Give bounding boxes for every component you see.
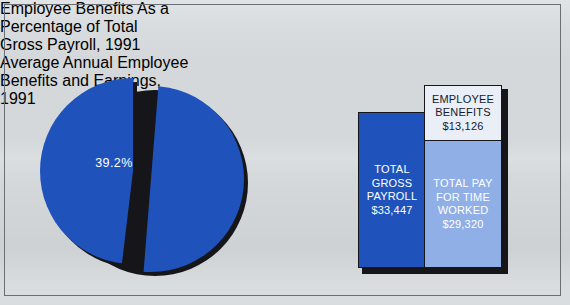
right-chart-title-line-1: Average Annual Employee — [0, 54, 215, 72]
bar-paytime-value: $29,320 — [442, 218, 483, 232]
left-chart-title: Employee Benefits As a Percentage of Tot… — [0, 0, 232, 54]
bar-chart: TOTAL GROSS PAYROLL $33,447 EMPLOYEE BEN… — [352, 82, 512, 282]
left-chart-title-line-3: Gross Payroll, 1991 — [0, 36, 232, 54]
left-chart-title-line-2: Percentage of Total — [0, 18, 232, 36]
bar-benefits-label-line-1: EMPLOYEE — [432, 93, 494, 107]
left-chart-title-line-1: Employee Benefits As a — [0, 0, 232, 18]
pie-slice-percent-label: 39.2% — [62, 156, 166, 170]
bar-benefits-value: $13,126 — [442, 120, 483, 134]
bar-gross-label-line-3: PAYROLL — [367, 190, 418, 204]
bar-gross-label-line-1: TOTAL — [374, 163, 409, 177]
bar-paytime-label-line-2: FOR TIME — [436, 191, 490, 205]
pie-chart: 39.2% — [40, 78, 255, 278]
bar-employee-benefits[interactable]: EMPLOYEE BENEFITS $13,126 — [424, 85, 502, 141]
bar-paytime-label-line-1: TOTAL PAY — [433, 177, 492, 191]
bar-total-pay-for-time-worked[interactable]: TOTAL PAY FOR TIME WORKED $29,320 — [424, 140, 502, 268]
bar-gross-value: $33,447 — [371, 204, 412, 218]
bar-paytime-label-line-3: WORKED — [438, 204, 489, 218]
bar-total-gross-payroll[interactable]: TOTAL GROSS PAYROLL $33,447 — [358, 112, 426, 268]
bar-benefits-label-line-2: BENEFITS — [435, 106, 490, 120]
figure-canvas: Employee Benefits As a Percentage of Tot… — [0, 0, 570, 305]
bar-gross-label-line-2: GROSS — [372, 177, 413, 191]
